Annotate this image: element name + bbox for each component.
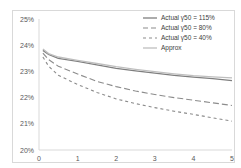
x-tick-label: 2 [114,155,118,162]
series-line-2 [43,57,232,121]
y-tick-label: 23% [20,68,34,75]
line-chart: 20%21%22%23%24%25%012345 Actual γ50 = 11… [0,0,241,168]
legend-label: Actual γ50 = 40% [161,34,212,42]
y-tick-label: 24% [20,42,34,49]
legend-label: Approx [161,44,182,52]
x-tick-label: 1 [76,155,80,162]
legend-label: Actual γ50 = 80% [161,24,212,32]
x-tick-label: 3 [153,155,157,162]
y-tick-label: 22% [20,94,34,101]
x-tick-label: 5 [230,155,234,162]
legend: Actual γ50 = 115%Actual γ50 = 80%Actual … [143,14,215,52]
x-tick-label: 4 [191,155,195,162]
x-tick-label: 0 [37,155,41,162]
y-tick-label: 25% [20,16,34,23]
series-line-3 [43,49,232,78]
y-tick-label: 20% [20,147,34,154]
y-tick-label: 21% [20,120,34,127]
legend-label: Actual γ50 = 115% [161,14,215,22]
series-lines [43,49,232,121]
